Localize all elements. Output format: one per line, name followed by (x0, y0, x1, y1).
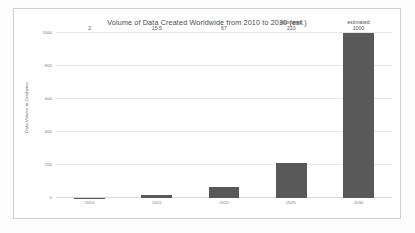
bar-value-number: 210 (287, 25, 296, 31)
y-axis-tick-label: 400 (45, 129, 52, 134)
bar[interactable]: 67 (209, 187, 240, 198)
bar-series: 215.567estimated210estimated1000 (56, 33, 392, 198)
plot-area: 02004006008001000 215.567estimated210est… (56, 33, 392, 198)
chart-page: Volume of Data Created Worldwide from 20… (0, 0, 415, 233)
y-axis-tick-label: 600 (45, 96, 52, 101)
y-axis-title: Data Volume in Zetabytes (24, 73, 29, 143)
x-axis: 20102015202020252030 (56, 200, 392, 212)
y-axis-tick-label: 800 (45, 63, 52, 68)
bar-value-label: 2 (56, 25, 123, 33)
bar-slot: estimated210 (258, 33, 325, 198)
bar-value-label: estimated1000 (325, 19, 392, 34)
bar-value-number: 67 (221, 25, 227, 31)
bar-slot: 2 (56, 33, 123, 198)
bar-slot: estimated1000 (325, 33, 392, 198)
bar-value-number: 2 (88, 25, 91, 31)
bar-value-number: 15.5 (152, 25, 162, 31)
y-axis-tick-label: 200 (45, 162, 52, 167)
x-axis-tick-label: 2020 (190, 200, 257, 212)
bar[interactable]: 2 (74, 198, 105, 199)
bar-value-label: estimated210 (258, 19, 325, 34)
bar-value-label: 67 (190, 25, 257, 33)
bar-value-label: 15.5 (123, 25, 190, 33)
x-axis-tick-label: 2025 (258, 200, 325, 212)
bar[interactable]: estimated210 (276, 163, 307, 198)
x-axis-tick-label: 2015 (123, 200, 190, 212)
y-axis-tick-label: 1000 (42, 30, 52, 35)
bar-value-number: 1000 (353, 25, 365, 31)
bar[interactable]: 15.5 (141, 195, 172, 198)
bar[interactable]: estimated1000 (343, 33, 374, 198)
x-axis-tick-label: 2010 (56, 200, 123, 212)
bar-slot: 67 (190, 33, 257, 198)
x-axis-tick-label: 2030 (325, 200, 392, 212)
chart-frame: Volume of Data Created Worldwide from 20… (13, 8, 401, 219)
bar-slot: 15.5 (123, 33, 190, 198)
y-axis-tick-label: 0 (50, 195, 52, 200)
